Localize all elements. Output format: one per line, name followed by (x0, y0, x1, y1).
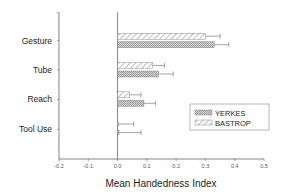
legend-label-bastrop: BASTROP (215, 119, 251, 128)
x-tick-label: 0.5 (260, 163, 268, 169)
x-tick-labels: -0.2-0.10.00.10.20.30.40.5 (54, 163, 268, 169)
x-tick-label: 0.4 (231, 163, 239, 169)
x-tick-label: -0.2 (54, 163, 63, 169)
y-axis (57, 13, 59, 160)
bar-yerkes (118, 71, 159, 77)
category-label: Gesture (22, 36, 53, 46)
category-labels: GestureTubeReachTool Use (19, 36, 52, 135)
bar-bastrop (118, 33, 206, 39)
bar-yerkes (118, 42, 215, 48)
category-label: Tube (33, 65, 52, 75)
category-label: Reach (27, 94, 52, 104)
legend: YERKES BASTROP (190, 104, 269, 130)
x-tick-label: 0.0 (114, 163, 122, 169)
bar-bastrop (118, 92, 130, 98)
x-tick-label: 0.1 (143, 163, 151, 169)
bar-yerkes (118, 130, 119, 135)
x-axis-title: Mean Handedness Index (105, 178, 216, 189)
x-tick-label: 0.3 (202, 163, 210, 169)
legend-swatch-bastrop (195, 120, 212, 125)
bar-bastrop (118, 122, 119, 127)
legend-label-yerkes: YERKES (215, 109, 245, 118)
bar-chart: GestureTubeReachTool Use -0.2-0.10.00.10… (0, 0, 283, 196)
x-tick-label: -0.1 (84, 163, 93, 169)
bar-bastrop (118, 63, 153, 69)
x-tick-label: 0.2 (172, 163, 180, 169)
bar-yerkes (118, 100, 144, 106)
legend-swatch-yerkes (195, 110, 212, 115)
category-label: Tool Use (19, 124, 52, 134)
x-axis (59, 159, 264, 161)
